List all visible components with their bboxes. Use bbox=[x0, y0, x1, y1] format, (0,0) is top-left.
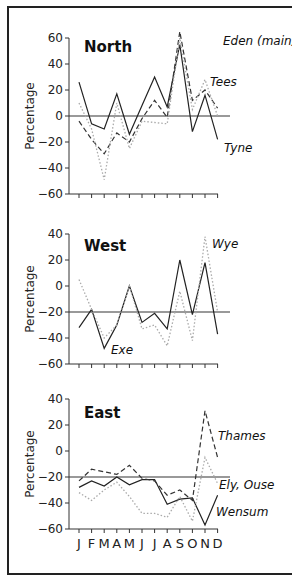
panel-east: 40200−20−40−60JFMAMJJASONDPercentageEast… bbox=[23, 392, 274, 551]
x-tick-label: J bbox=[76, 536, 81, 551]
y-tick-label: 20 bbox=[48, 253, 63, 267]
y-axis-label: Percentage bbox=[23, 430, 37, 498]
x-tick-label: F bbox=[88, 536, 95, 551]
y-tick-label: −20 bbox=[38, 135, 63, 149]
x-tick-label: J bbox=[139, 536, 144, 551]
y-tick-label: 0 bbox=[55, 444, 63, 458]
y-axis-label: Percentage bbox=[23, 82, 37, 150]
panel-title: West bbox=[84, 237, 126, 255]
x-tick-label: A bbox=[163, 536, 172, 551]
series-label: Ely, Ouse bbox=[219, 478, 274, 492]
x-tick-label: J bbox=[152, 536, 157, 551]
y-axis-label: Percentage bbox=[23, 265, 37, 333]
y-tick-label: −20 bbox=[38, 470, 63, 484]
y-tick-label: 40 bbox=[48, 392, 63, 406]
series-line-wensum bbox=[79, 477, 218, 525]
series-line-exe bbox=[79, 260, 218, 348]
panel-west: 40200−20−40−60PercentageWestWyeExe bbox=[23, 227, 238, 371]
series-label: Thames bbox=[218, 429, 266, 443]
panel-title: East bbox=[84, 404, 120, 422]
x-tick-label: M bbox=[99, 536, 110, 551]
x-tick-label: O bbox=[187, 536, 197, 551]
y-tick-label: 60 bbox=[48, 31, 63, 45]
series-label: Tyne bbox=[224, 141, 252, 155]
y-tick-label: −20 bbox=[38, 305, 63, 319]
series-line-eden-main bbox=[79, 38, 218, 180]
y-tick-label: 0 bbox=[55, 109, 63, 123]
panel-north: 6040200−20−40−60PercentageNorthEden (mai… bbox=[23, 31, 292, 201]
series-label: Tees bbox=[210, 75, 237, 89]
y-tick-label: 20 bbox=[48, 418, 63, 432]
x-tick-label: A bbox=[112, 536, 121, 551]
y-tick-label: −40 bbox=[38, 331, 63, 345]
y-tick-label: 40 bbox=[48, 227, 63, 241]
x-tick-label: D bbox=[213, 536, 223, 551]
y-tick-label: −60 bbox=[38, 357, 63, 371]
y-tick-label: −60 bbox=[38, 522, 63, 536]
series-label: Wye bbox=[212, 237, 238, 251]
series-line-tyne bbox=[79, 45, 218, 140]
y-tick-label: 0 bbox=[55, 279, 63, 293]
x-tick-label: N bbox=[200, 536, 210, 551]
series-label: Exe bbox=[111, 343, 133, 357]
y-tick-label: 20 bbox=[48, 83, 63, 97]
chart-canvas: 6040200−20−40−60PercentageNorthEden (mai… bbox=[0, 0, 292, 581]
series-label: Wensum bbox=[216, 505, 268, 519]
x-tick-label: M bbox=[124, 536, 135, 551]
x-tick-label: S bbox=[176, 536, 184, 551]
y-tick-label: −40 bbox=[38, 161, 63, 175]
y-tick-label: 40 bbox=[48, 57, 63, 71]
y-tick-label: −40 bbox=[38, 496, 63, 510]
y-tick-label: −60 bbox=[38, 187, 63, 201]
series-line-thames bbox=[79, 411, 218, 501]
series-label: Eden (main) bbox=[223, 34, 292, 48]
panel-title: North bbox=[84, 38, 132, 56]
